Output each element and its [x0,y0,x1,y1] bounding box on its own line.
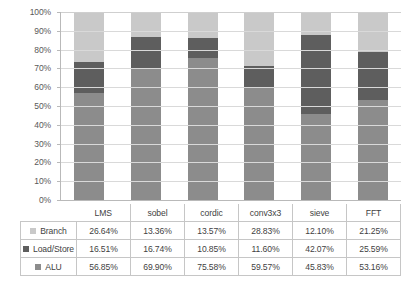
table-cell-value: 25.59% [347,240,401,258]
y-axis-tick-label: 20% [34,158,51,167]
gridline [61,106,401,107]
bar-segment [74,62,104,93]
data-table: LMSsobelcordicconv3x3sieveFFTBranch26.64… [20,204,401,276]
table-cell-value: 10.85% [185,240,239,258]
table-cell-value: 42.07% [293,240,347,258]
table-cell-value: 53.16% [347,258,401,276]
gridline [61,12,401,13]
y-axis-tick-mark [57,200,61,201]
legend-label: Branch [40,226,67,236]
table-row: Load/Store16.51%16.74%10.85%11.60%42.07%… [21,240,401,258]
legend-swatch-icon [30,228,36,234]
bar-segment [358,52,388,100]
bar-segment [188,38,218,58]
y-axis-tick-label: 100% [30,8,51,17]
y-axis-tick-mark [57,162,61,163]
x-axis-category-label: conv3x3 [239,204,293,222]
bar-segment [358,100,388,200]
bar-segment [301,114,331,200]
gridline [61,68,401,69]
bar-segment [188,12,218,38]
legend-item-alu[interactable]: ALU [21,258,77,276]
gridline [61,144,401,145]
table-row: Branch26.64%13.36%13.57%28.83%12.10%21.2… [21,222,401,240]
legend-swatch-icon [23,246,29,252]
y-axis-tick-label: 50% [34,102,51,111]
table-cell-value: 45.83% [293,258,347,276]
x-axis-category-label: cordic [185,204,239,222]
y-axis-tick-label: 60% [34,83,51,92]
data-table-body: LMSsobelcordicconv3x3sieveFFTBranch26.64… [21,204,401,276]
table-cell-value: 11.60% [239,240,293,258]
table-corner-cell [21,204,77,222]
plot-region: 100%90%80%70%60%50%40%30%20%10%0% [0,0,418,212]
y-axis-tick-label: 40% [34,121,51,130]
bar-segment [131,37,161,68]
legend-label: Load/Store [33,244,74,254]
gridline [61,50,401,51]
x-axis-category-label: sieve [293,204,347,222]
y-axis-tick-mark [57,87,61,88]
gridline [61,125,401,126]
bar-segment [188,58,218,200]
bar-segment [74,93,104,200]
y-axis-tick-label: 70% [34,64,51,73]
bar-segment [244,12,274,66]
bar-segment [301,35,331,114]
legend-item-load-store[interactable]: Load/Store [21,240,77,258]
stacked-bar-chart: 100%90%80%70%60%50%40%30%20%10%0% LMSsob… [0,0,418,284]
plot-area [60,12,401,201]
bar-segment [131,12,161,37]
table-cell-value: 21.25% [347,222,401,240]
y-axis-tick-label: 10% [34,177,51,186]
y-axis-tick-label: 0% [39,196,51,205]
bar-segment [74,12,104,62]
table-cell-value: 12.10% [293,222,347,240]
y-axis-tick-mark [57,68,61,69]
table-cell-value: 69.90% [131,258,185,276]
y-axis-tick-label: 90% [34,27,51,36]
table-cell-value: 16.74% [131,240,185,258]
gridline [61,181,401,182]
y-axis: 100%90%80%70%60%50%40%30%20%10%0% [0,0,58,212]
gridline [61,87,401,88]
bar-segment [244,66,274,88]
y-axis-tick-mark [57,106,61,107]
y-axis-tick-mark [57,144,61,145]
table-header-row: LMSsobelcordicconv3x3sieveFFT [21,204,401,222]
x-axis-category-label: FFT [347,204,401,222]
legend-item-branch[interactable]: Branch [21,222,77,240]
table-cell-value: 13.36% [131,222,185,240]
y-axis-tick-mark [57,12,61,13]
table-cell-value: 16.51% [77,240,131,258]
table-row: ALU56.85%69.90%75.58%59.57%45.83%53.16% [21,258,401,276]
table-cell-value: 75.58% [185,258,239,276]
y-axis-tick-label: 80% [34,45,51,54]
table-cell-value: 59.57% [239,258,293,276]
table-cell-value: 28.83% [239,222,293,240]
x-axis-category-label: sobel [131,204,185,222]
y-axis-tick-mark [57,31,61,32]
legend-swatch-icon [35,264,41,270]
bar-segment [358,12,388,52]
y-axis-tick-label: 30% [34,139,51,148]
gridline [61,162,401,163]
table-cell-value: 13.57% [185,222,239,240]
gridline [61,31,401,32]
table-cell-value: 56.85% [77,258,131,276]
x-axis-category-label: LMS [77,204,131,222]
table-cell-value: 26.64% [77,222,131,240]
legend-label: ALU [45,262,61,272]
y-axis-tick-mark [57,181,61,182]
y-axis-tick-mark [57,50,61,51]
y-axis-tick-mark [57,125,61,126]
